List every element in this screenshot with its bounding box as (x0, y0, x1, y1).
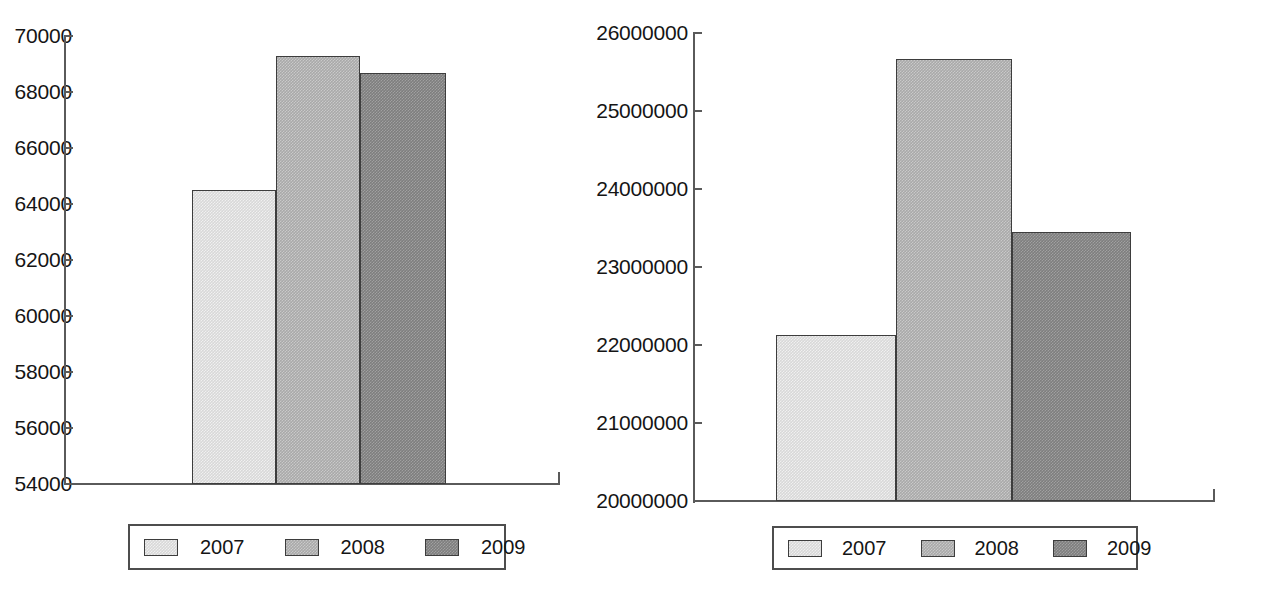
left-ytick-label-56000: 56000 (0, 417, 72, 438)
left-legend-label-2009: 2009 (481, 537, 526, 557)
right-ytick-label-20000000: 20000000 (592, 490, 688, 511)
right-legend-entry-2007[interactable]: 2007 (788, 538, 887, 558)
left-legend-label-2008: 2008 (341, 537, 386, 557)
left-x-axis-end-tick (558, 472, 560, 483)
right-legend-swatch-2008 (921, 540, 955, 557)
left-ytick-label-54000: 54000 (0, 473, 72, 494)
left-ytick-label-62000: 62000 (0, 249, 72, 270)
right-ytick-mark-26000000 (693, 32, 702, 34)
left-ytick-label-70000: 70000 (0, 25, 72, 46)
left-ytick-mark-58000 (64, 371, 73, 373)
right-ytick-label-26000000: 26000000 (592, 22, 688, 43)
right-ytick-label-23000000: 23000000 (592, 256, 688, 277)
left-ytick-label-60000: 60000 (0, 305, 72, 326)
right-ytick-label-21000000: 21000000 (592, 412, 688, 433)
right-legend-label-2008: 2008 (975, 538, 1020, 558)
right-legend: 2007 2008 2009 (772, 526, 1138, 570)
left-ytick-mark-66000 (64, 147, 73, 149)
left-ytick-mark-56000 (64, 427, 73, 429)
right-bar-2007[interactable] (776, 335, 896, 501)
right-legend-label-2009: 2009 (1107, 538, 1152, 558)
left-legend-entry-2007[interactable]: 2007 (144, 537, 245, 557)
right-ytick-mark-21000000 (693, 422, 702, 424)
left-ytick-mark-60000 (64, 315, 73, 317)
right-legend-entry-2009[interactable]: 2009 (1053, 538, 1152, 558)
right-ytick-mark-23000000 (693, 266, 702, 268)
left-ytick-mark-70000 (64, 35, 73, 37)
right-legend-swatch-2009 (1053, 540, 1087, 557)
right-ytick-mark-22000000 (693, 344, 702, 346)
right-ytick-label-22000000: 22000000 (592, 334, 688, 355)
right-bar-2009[interactable] (1012, 232, 1131, 501)
left-legend-swatch-2008 (285, 539, 319, 556)
left-bar-chart: 70000 68000 66000 64000 62000 60000 5800… (0, 0, 600, 603)
left-legend-swatch-2007 (144, 539, 178, 556)
right-ytick-mark-25000000 (693, 110, 702, 112)
left-legend-entry-2008[interactable]: 2008 (285, 537, 386, 557)
left-bar-2007[interactable] (192, 190, 276, 484)
left-ytick-label-58000: 58000 (0, 361, 72, 382)
right-legend-swatch-2007 (788, 540, 822, 557)
right-legend-entry-2008[interactable]: 2008 (921, 538, 1020, 558)
right-ytick-label-25000000: 25000000 (592, 100, 688, 121)
left-ytick-mark-62000 (64, 259, 73, 261)
left-legend-entry-2009[interactable]: 2009 (425, 537, 526, 557)
left-bar-2008[interactable] (276, 56, 360, 484)
left-ytick-label-64000: 64000 (0, 193, 72, 214)
left-ytick-mark-64000 (64, 203, 73, 205)
left-legend: 2007 2008 2009 (128, 524, 506, 570)
right-bar-chart: 26000000 25000000 24000000 23000000 2200… (600, 0, 1270, 603)
right-ytick-label-24000000: 24000000 (592, 178, 688, 199)
right-x-axis-end-tick (1213, 489, 1215, 500)
right-legend-label-2007: 2007 (842, 538, 887, 558)
left-bar-2009[interactable] (360, 73, 446, 484)
left-ytick-mark-68000 (64, 91, 73, 93)
right-bar-2008[interactable] (896, 59, 1012, 501)
left-ytick-label-68000: 68000 (0, 81, 72, 102)
right-ytick-mark-24000000 (693, 188, 702, 190)
left-legend-swatch-2009 (425, 539, 459, 556)
left-legend-label-2007: 2007 (200, 537, 245, 557)
left-ytick-label-66000: 66000 (0, 137, 72, 158)
chart-page: 70000 68000 66000 64000 62000 60000 5800… (0, 0, 1270, 603)
